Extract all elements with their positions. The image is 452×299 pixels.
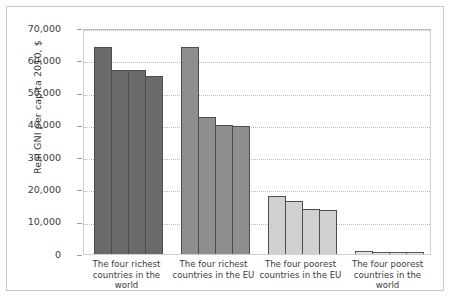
plot-frame — [83, 29, 431, 255]
bar — [94, 47, 112, 254]
y-axis-tick-mark — [77, 126, 82, 127]
y-axis-tick-mark — [77, 61, 82, 62]
bar — [232, 126, 250, 254]
bar — [268, 196, 286, 254]
bar — [145, 76, 163, 254]
bar — [406, 252, 424, 254]
x-axis-category-label: The four poorest countries in the world — [344, 259, 431, 291]
y-axis-tick-mark — [77, 190, 82, 191]
bar-group — [258, 30, 345, 254]
y-axis-tick-mark — [77, 29, 82, 30]
bar-group — [345, 30, 432, 254]
y-axis-tick-mark — [77, 158, 82, 159]
y-axis-tick-label: 10,000 — [0, 216, 61, 227]
x-axis-category-label: The four richest countries in the world — [83, 259, 170, 291]
y-axis-tick-label: 60,000 — [0, 55, 61, 66]
bar — [355, 251, 373, 254]
bar — [285, 201, 303, 254]
bar — [389, 252, 407, 254]
x-axis-category-label: The four poorest countries in the EU — [257, 259, 344, 280]
x-axis-category-label: The four richest countries in the EU — [170, 259, 257, 280]
y-axis-tick-label: 50,000 — [0, 87, 61, 98]
y-axis-tick-label: 20,000 — [0, 184, 61, 195]
bar — [111, 70, 129, 254]
bar — [302, 209, 320, 254]
bar — [181, 47, 199, 254]
bar-group — [84, 30, 171, 254]
plot-area — [83, 29, 431, 255]
y-axis-tick-mark — [77, 223, 82, 224]
y-axis-tick-label: 40,000 — [0, 119, 61, 130]
y-axis-tick-mark — [77, 94, 82, 95]
bar — [372, 252, 390, 254]
bar — [215, 125, 233, 254]
bar-group — [171, 30, 258, 254]
y-axis-tick-label: 30,000 — [0, 152, 61, 163]
bar — [198, 117, 216, 254]
bar — [128, 70, 146, 254]
chart-figure: Real GNI per capita 2010, $ 010,00020,00… — [6, 6, 444, 291]
y-axis-tick-label: 0 — [0, 249, 61, 260]
y-axis-tick-mark — [77, 255, 82, 256]
bar — [319, 210, 337, 254]
y-axis-tick-label: 70,000 — [0, 23, 61, 34]
